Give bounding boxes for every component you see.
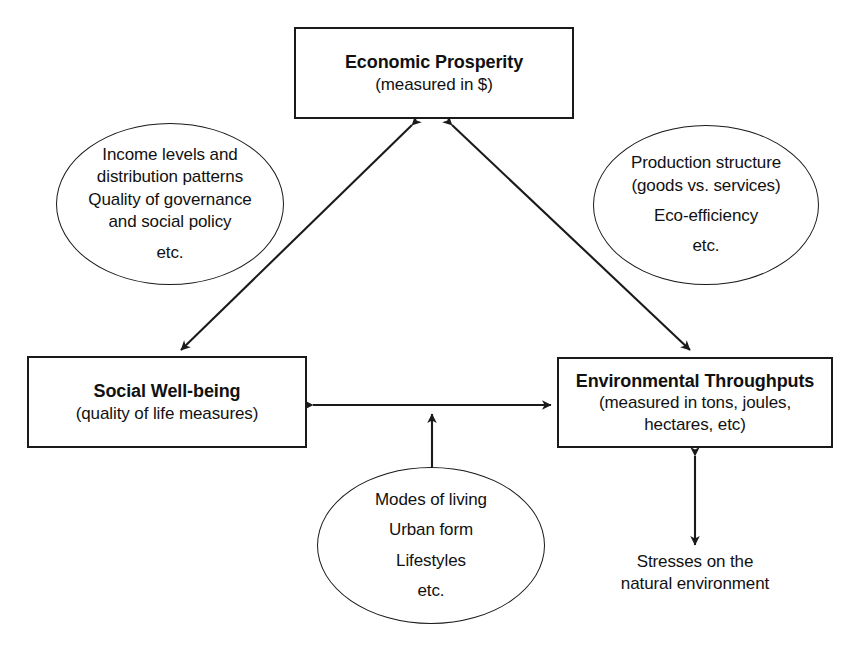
ellipse-production-structure[interactable]: Production structure (goods vs. services… <box>593 125 819 285</box>
node-environmental-throughputs-subtitle: (measured in tons, joules, hectares, etc… <box>599 392 791 435</box>
ellipse-production-structure-footer: etc. <box>692 235 719 257</box>
ellipse-production-structure-line: Production structure <box>631 152 781 174</box>
node-economic-prosperity-subtitle: (measured in $) <box>375 74 493 95</box>
ellipse-modes-of-living-line: Lifestyles <box>396 550 466 572</box>
node-environmental-throughputs-subtitle-line: hectares, etc) <box>599 414 791 435</box>
node-economic-prosperity-title: Economic Prosperity <box>345 51 523 74</box>
ellipse-production-structure-line: Eco-efficiency <box>654 205 758 227</box>
caption-stresses-line: Stresses on the <box>595 551 795 573</box>
node-social-well-being-subtitle: (quality of life measures) <box>76 403 259 424</box>
ellipse-income-levels[interactable]: Income levels and distribution patterns … <box>56 123 284 285</box>
node-economic-prosperity-subtitle-line: (measured in $) <box>375 74 493 95</box>
ellipse-income-levels-line: Quality of governance <box>88 189 251 211</box>
ellipse-income-levels-line: Income levels and <box>102 144 237 166</box>
ellipse-modes-of-living-footer: etc. <box>417 580 444 602</box>
diagram-canvas: Economic Prosperity (measured in $) Soci… <box>0 0 859 650</box>
ellipse-income-levels-footer: etc. <box>156 242 183 264</box>
node-environmental-throughputs-subtitle-line: (measured in tons, joules, <box>599 392 791 413</box>
node-social-well-being-subtitle-line: (quality of life measures) <box>76 403 259 424</box>
ellipse-modes-of-living[interactable]: Modes of living Urban form Lifestyles et… <box>317 467 545 624</box>
caption-stresses-line: natural environment <box>595 573 795 595</box>
node-environmental-throughputs-title: Environmental Throughputs <box>576 370 815 393</box>
ellipse-modes-of-living-line: Modes of living <box>375 489 487 511</box>
node-economic-prosperity[interactable]: Economic Prosperity (measured in $) <box>294 27 574 119</box>
caption-stresses-on-natural-environment: Stresses on the natural environment <box>595 551 795 596</box>
ellipse-production-structure-line: (goods vs. services) <box>631 175 780 197</box>
ellipse-income-levels-line: distribution patterns <box>97 166 243 188</box>
node-social-well-being[interactable]: Social Well-being (quality of life measu… <box>27 356 307 448</box>
ellipse-income-levels-line: and social policy <box>108 211 231 233</box>
node-environmental-throughputs[interactable]: Environmental Throughputs (measured in t… <box>557 357 833 448</box>
ellipse-modes-of-living-line: Urban form <box>389 519 473 541</box>
node-social-well-being-title: Social Well-being <box>94 380 241 403</box>
